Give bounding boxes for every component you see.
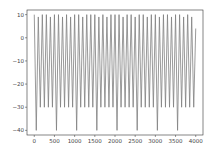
- x-tick-label: 4000: [189, 138, 203, 144]
- x-tick-label: 3500: [169, 138, 183, 144]
- x-tick-label: 1000: [68, 138, 82, 144]
- y-axis: 100−10−20−30−40: [12, 12, 27, 134]
- y-tick-label: −30: [12, 104, 24, 110]
- x-tick-label: 500: [49, 138, 60, 144]
- y-tick-label: 0: [21, 35, 25, 41]
- x-tick-label: 2000: [108, 138, 122, 144]
- y-tick-label: −10: [12, 58, 24, 64]
- x-tick-label: 0: [33, 138, 37, 144]
- x-tick-label: 3000: [148, 138, 162, 144]
- series-line: [34, 15, 195, 131]
- y-tick-label: −20: [12, 81, 24, 87]
- line-chart: 100−10−20−30−40 050010001500200025003000…: [0, 0, 213, 154]
- x-tick-label: 1500: [88, 138, 102, 144]
- data-line: [34, 15, 195, 131]
- y-tick-label: −40: [12, 127, 24, 133]
- x-axis: 05001000150020002500300035004000: [33, 135, 204, 144]
- x-tick-label: 2500: [128, 138, 142, 144]
- y-tick-label: 10: [17, 12, 24, 18]
